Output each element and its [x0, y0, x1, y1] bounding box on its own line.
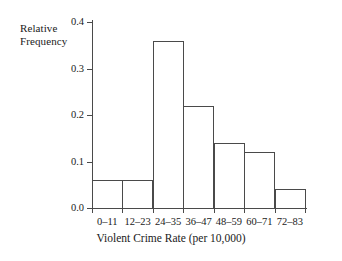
y-axis-tick-label: 0.3	[56, 64, 84, 75]
y-axis-tick	[87, 69, 92, 70]
histogram-bar	[275, 189, 306, 208]
x-axis-tick-label: 72–83	[270, 216, 310, 227]
x-axis-tick	[183, 208, 184, 213]
y-axis-label-line1: Relative	[20, 22, 57, 34]
x-axis-tick	[153, 208, 154, 213]
histogram-bar	[183, 106, 214, 208]
y-axis-tick-label: 0.1	[56, 157, 84, 168]
histogram-bar	[153, 41, 184, 208]
y-axis-tick-label: 0.0	[56, 203, 84, 214]
histogram-figure: Relative Frequency 0.00.10.20.30.4 0–111…	[0, 0, 342, 261]
histogram-bar	[122, 180, 153, 208]
x-axis-tick	[275, 208, 276, 213]
x-axis-tick	[305, 208, 306, 213]
y-axis-tick	[87, 115, 92, 116]
histogram-bar	[214, 143, 245, 208]
y-axis-tick	[87, 22, 92, 23]
x-axis-tick	[92, 208, 93, 213]
x-axis-tick	[244, 208, 245, 213]
y-axis-tick-label: 0.4	[56, 17, 84, 28]
histogram-bar	[92, 180, 123, 208]
y-axis-label-line2: Frequency	[20, 35, 88, 48]
x-axis-title: Violent Crime Rate (per 10,000)	[0, 232, 342, 245]
histogram-bar	[244, 152, 275, 208]
y-axis-tick	[87, 162, 92, 163]
x-axis-tick	[214, 208, 215, 213]
y-axis-tick-label: 0.2	[56, 110, 84, 121]
x-axis-tick	[122, 208, 123, 213]
